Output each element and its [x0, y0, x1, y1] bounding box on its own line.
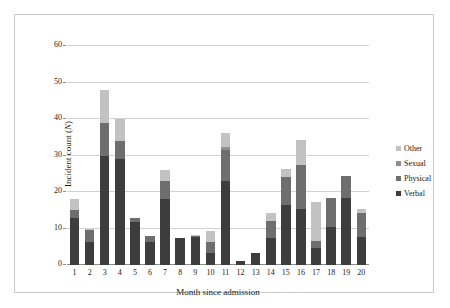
bar-segment-physical[interactable] [221, 150, 231, 181]
bar-segment-verbal[interactable] [357, 237, 367, 265]
x-axis-tick-label: 20 [357, 269, 365, 277]
bar-segment-verbal[interactable] [266, 238, 276, 265]
stacked-bar[interactable] [160, 170, 170, 265]
bar-group[interactable]: 3 [97, 46, 112, 265]
bar-group[interactable]: 4 [112, 46, 127, 265]
stacked-bar[interactable] [191, 235, 201, 265]
bar-segment-verbal[interactable] [206, 253, 216, 265]
bar-group[interactable]: 6 [142, 46, 157, 265]
bar-segment-other[interactable] [115, 119, 125, 141]
bar-segment-physical[interactable] [326, 198, 336, 227]
bar-group[interactable]: 20 [354, 46, 369, 265]
legend-item-other[interactable]: Other [396, 141, 448, 156]
stacked-bar[interactable] [236, 261, 246, 265]
stacked-bar[interactable] [70, 199, 80, 265]
stacked-bar[interactable] [251, 253, 261, 265]
x-axis-tick-label: 10 [206, 269, 214, 277]
bar-segment-verbal[interactable] [115, 159, 125, 265]
stacked-bar[interactable] [266, 213, 276, 265]
bar-segment-verbal[interactable] [175, 238, 185, 265]
bar-group[interactable]: 14 [263, 46, 278, 265]
legend-item-verbal[interactable]: Verbal [396, 186, 448, 201]
bar-segment-physical[interactable] [311, 241, 321, 248]
bar-segment-physical[interactable] [266, 221, 276, 238]
chart-figure: Incident count (N) 0102030405060 1234567… [0, 0, 450, 308]
bar-segment-other[interactable] [296, 140, 306, 165]
y-axis-tick-label: 0 [58, 260, 62, 268]
bar-segment-verbal[interactable] [191, 237, 201, 265]
stacked-bar[interactable] [145, 236, 155, 265]
bar-segment-verbal[interactable] [85, 242, 95, 265]
stacked-bar[interactable] [175, 238, 185, 265]
bar-group[interactable]: 7 [158, 46, 173, 265]
legend-swatch-icon [396, 191, 401, 196]
bar-segment-other[interactable] [206, 231, 216, 242]
stacked-bar[interactable] [130, 218, 140, 265]
bar-group[interactable]: 8 [173, 46, 188, 265]
bar-segment-physical[interactable] [115, 141, 125, 159]
bar-segment-verbal[interactable] [145, 242, 155, 265]
bar-segment-verbal[interactable] [130, 222, 140, 265]
bar-segment-verbal[interactable] [251, 253, 261, 265]
bar-segment-other[interactable] [281, 169, 291, 177]
bar-group[interactable]: 17 [309, 46, 324, 265]
bar-segment-physical[interactable] [206, 242, 216, 253]
y-axis-tick-mark [63, 45, 66, 46]
bar-group[interactable]: 13 [248, 46, 263, 265]
stacked-bar[interactable] [221, 133, 231, 265]
stacked-bar[interactable] [311, 202, 321, 265]
bar-segment-physical[interactable] [85, 230, 95, 242]
bar-segment-verbal[interactable] [221, 181, 231, 265]
bar-segment-other[interactable] [266, 213, 276, 221]
bar-group[interactable]: 15 [278, 46, 293, 265]
stacked-bar[interactable] [296, 140, 306, 265]
bar-group[interactable]: 16 [293, 46, 308, 265]
bar-segment-physical[interactable] [281, 177, 291, 205]
bar-segment-other[interactable] [100, 90, 110, 123]
legend-item-sexual[interactable]: Sexual [396, 156, 448, 171]
bar-segment-verbal[interactable] [70, 218, 80, 265]
bar-series-container: 1234567891011121314151617181920 [67, 46, 369, 265]
legend-label: Physical [404, 175, 431, 183]
bar-segment-verbal[interactable] [326, 227, 336, 265]
stacked-bar[interactable] [357, 209, 367, 265]
bar-group[interactable]: 10 [203, 46, 218, 265]
bar-segment-physical[interactable] [357, 213, 367, 237]
x-axis-tick-label: 14 [267, 269, 275, 277]
x-axis-tick-label: 7 [163, 269, 167, 277]
bar-segment-verbal[interactable] [160, 199, 170, 265]
stacked-bar[interactable] [206, 231, 216, 265]
x-axis-tick-label: 6 [148, 269, 152, 277]
bar-group[interactable]: 19 [339, 46, 354, 265]
bar-group[interactable]: 18 [324, 46, 339, 265]
bar-segment-physical[interactable] [70, 210, 80, 217]
bar-segment-verbal[interactable] [236, 261, 246, 265]
bar-group[interactable]: 12 [233, 46, 248, 265]
bar-segment-physical[interactable] [296, 165, 306, 209]
stacked-bar[interactable] [85, 229, 95, 265]
stacked-bar[interactable] [281, 169, 291, 265]
bar-group[interactable]: 9 [188, 46, 203, 265]
stacked-bar[interactable] [326, 198, 336, 265]
bar-segment-verbal[interactable] [341, 198, 351, 265]
bar-group[interactable]: 1 [67, 46, 82, 265]
bar-group[interactable]: 11 [218, 46, 233, 265]
bar-segment-verbal[interactable] [281, 205, 291, 265]
bar-segment-other[interactable] [311, 202, 321, 241]
bar-segment-other[interactable] [70, 199, 80, 210]
y-axis-tick-mark [63, 82, 66, 83]
bar-segment-physical[interactable] [100, 123, 110, 156]
stacked-bar[interactable] [341, 176, 351, 265]
bar-segment-other[interactable] [160, 170, 170, 181]
bar-segment-physical[interactable] [341, 176, 351, 198]
bar-group[interactable]: 5 [127, 46, 142, 265]
bar-segment-physical[interactable] [160, 181, 170, 199]
legend-item-physical[interactable]: Physical [396, 171, 448, 186]
bar-segment-other[interactable] [221, 133, 231, 147]
bar-segment-verbal[interactable] [311, 248, 321, 265]
bar-group[interactable]: 2 [82, 46, 97, 265]
stacked-bar[interactable] [100, 90, 110, 265]
stacked-bar[interactable] [115, 119, 125, 265]
bar-segment-verbal[interactable] [100, 156, 110, 266]
bar-segment-verbal[interactable] [296, 209, 306, 265]
